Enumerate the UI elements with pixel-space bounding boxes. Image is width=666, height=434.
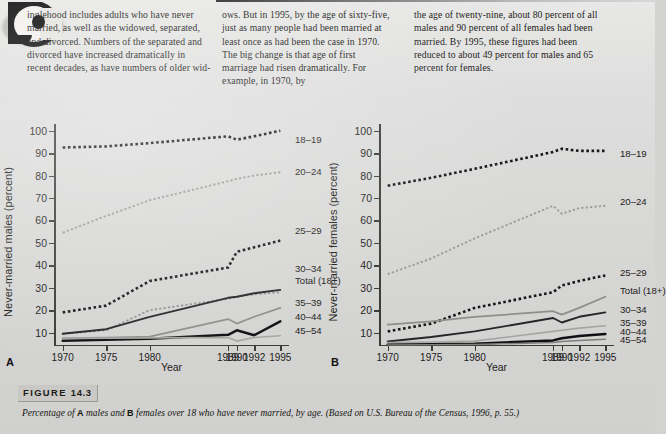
y-tick xyxy=(49,198,54,199)
chart-a-x-axis-title: Year xyxy=(54,361,289,373)
y-tick xyxy=(374,131,379,132)
series-line-25-29 xyxy=(63,241,281,313)
figure-tag-word: FIGURE xyxy=(23,387,67,398)
y-tick xyxy=(374,243,379,244)
caption-part-3: females over 18 who have never married, … xyxy=(134,408,520,418)
caption-part-1: Percentage of xyxy=(22,408,77,418)
x-tick xyxy=(431,346,432,351)
series-line-40-44 xyxy=(388,334,606,345)
y-tick-label: 90 xyxy=(360,147,372,159)
article-column-2: ows. But in 1995, by the age of sixty-fi… xyxy=(222,8,390,88)
chart-panel-b: Never-married females (percent) 10203040… xyxy=(327,114,651,370)
chart-b-plot-area: 1020304050607080901001970197519801989199… xyxy=(379,124,614,346)
y-tick-label: 90 xyxy=(35,147,47,159)
x-tick xyxy=(237,346,238,351)
chart-a-series-lines xyxy=(54,124,289,346)
article-column-1-text: inglehood includes adults who have never… xyxy=(27,8,212,74)
series-label-40-44: 40–44 xyxy=(295,311,322,322)
series-label-45-54: 45–54 xyxy=(620,334,647,345)
y-tick xyxy=(49,153,54,154)
series-label-18-19: 18–19 xyxy=(620,148,647,159)
article-text-block: inglehood includes adults who have never… xyxy=(0,8,655,108)
x-tick xyxy=(388,346,389,351)
x-tick xyxy=(475,346,476,351)
x-tick xyxy=(579,346,580,351)
series-label-45-54: 45–54 xyxy=(295,325,322,336)
y-tick-label: 100 xyxy=(354,125,372,137)
x-tick xyxy=(228,346,229,351)
x-tick xyxy=(150,346,151,351)
chart-b-panel-letter: B xyxy=(331,356,339,368)
y-tick-label: 30 xyxy=(360,282,372,294)
article-column-1: inglehood includes adults who have never… xyxy=(27,8,212,74)
y-tick-label: 30 xyxy=(35,282,47,294)
y-tick xyxy=(374,153,379,154)
y-tick xyxy=(49,243,54,244)
chart-a-y-axis-title: Never-married males (percent) xyxy=(2,167,14,317)
figure-tag-box: FIGURE 14.3 xyxy=(18,382,98,402)
y-tick xyxy=(49,176,54,177)
y-tick xyxy=(49,220,54,221)
y-tick xyxy=(374,176,379,177)
chart-b-series-lines xyxy=(379,124,614,346)
x-tick xyxy=(63,346,64,351)
y-tick xyxy=(374,265,379,266)
series-label-35-39: 35–39 xyxy=(295,297,322,308)
y-tick xyxy=(374,310,379,311)
series-line-total-18- xyxy=(388,297,606,325)
figure-tag: FIGURE 14.3 xyxy=(18,385,98,402)
x-tick xyxy=(106,346,107,351)
series-label-30-34: 30–34 xyxy=(295,263,322,274)
series-line-18-19 xyxy=(388,149,606,186)
figure-number: 14.3 xyxy=(71,387,92,398)
y-tick-label: 50 xyxy=(360,237,372,249)
series-line-total-18- xyxy=(63,290,281,334)
y-tick-label: 80 xyxy=(35,170,47,182)
y-tick xyxy=(49,265,54,266)
y-tick xyxy=(49,131,54,132)
chart-a-panel-letter: A xyxy=(6,356,14,368)
y-tick-label: 40 xyxy=(360,259,372,271)
y-tick-label: 40 xyxy=(35,259,47,271)
y-tick-label: 100 xyxy=(29,125,47,137)
article-column-3-text: the age of twenty-nine, about 80 percent… xyxy=(414,8,610,74)
y-tick xyxy=(374,220,379,221)
y-tick-label: 20 xyxy=(360,304,372,316)
series-label-20-24: 20–24 xyxy=(295,166,322,177)
x-tick xyxy=(605,346,606,351)
figure-caption: Percentage of A males and B females over… xyxy=(22,408,632,418)
y-tick xyxy=(374,198,379,199)
series-line-18-19 xyxy=(63,131,281,148)
y-tick-label: 10 xyxy=(35,327,47,339)
y-tick-label: 60 xyxy=(360,214,372,226)
chart-a-plot-area: 1020304050607080901001970197519801989199… xyxy=(54,124,289,346)
series-label-20-24: 20–24 xyxy=(620,196,647,207)
series-label-25-29: 25–29 xyxy=(620,267,647,278)
y-tick xyxy=(49,310,54,311)
y-tick-label: 50 xyxy=(35,237,47,249)
series-label-total-18-: Total (18+) xyxy=(620,285,666,296)
x-tick xyxy=(553,346,554,351)
article-column-2-text: ows. But in 1995, by the age of sixty-fi… xyxy=(222,8,390,88)
series-label-30-34: 30–34 xyxy=(620,304,647,315)
chart-b-y-axis-title: Never-married females (percent) xyxy=(327,163,339,322)
series-line-20-24 xyxy=(388,206,606,274)
caption-part-2: males and xyxy=(84,408,128,418)
y-tick xyxy=(49,288,54,289)
chart-b-x-axis-title: Year xyxy=(379,361,614,373)
series-line-20-24 xyxy=(63,172,281,233)
x-tick xyxy=(280,346,281,351)
y-tick-label: 20 xyxy=(35,304,47,316)
page-top-rule xyxy=(216,0,656,2)
article-column-3: the age of twenty-nine, about 80 percent… xyxy=(414,8,610,74)
y-tick-label: 80 xyxy=(360,170,372,182)
y-tick-label: 10 xyxy=(360,327,372,339)
y-tick xyxy=(49,333,54,334)
y-tick-label: 70 xyxy=(360,192,372,204)
chart-panel-a: Never-married males (percent) 1020304050… xyxy=(2,114,326,370)
y-tick-label: 70 xyxy=(35,192,47,204)
y-tick xyxy=(374,288,379,289)
series-line-30-34 xyxy=(63,292,281,334)
y-tick-label: 60 xyxy=(35,214,47,226)
x-tick xyxy=(562,346,563,351)
